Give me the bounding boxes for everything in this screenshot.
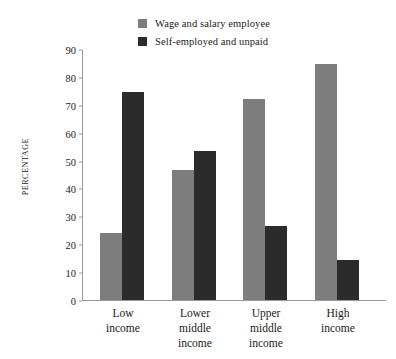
x-axis-label-line: income	[221, 336, 311, 351]
y-axis-tick-mark	[79, 273, 82, 274]
legend-entry-wage-and-salary-employee: Wage and salary employee	[138, 16, 270, 30]
x-axis-label: Highincome	[293, 306, 383, 336]
bar-group	[315, 50, 359, 300]
bar	[265, 226, 287, 300]
y-axis-tick-mark	[79, 301, 82, 302]
y-axis-tick-mark	[79, 50, 82, 51]
plot-area: 0102030405060708090	[82, 50, 386, 301]
y-axis-tick-mark	[79, 77, 82, 78]
bar-chart: Wage and salary employee Self-employed a…	[0, 0, 396, 359]
y-axis-tick-mark	[79, 161, 82, 162]
x-axis-label-line: income	[293, 321, 383, 336]
legend-label-series-0: Wage and salary employee	[155, 18, 270, 29]
x-axis-line	[82, 300, 386, 301]
bar	[315, 64, 337, 300]
bar	[337, 260, 359, 300]
y-axis-tick-mark	[79, 133, 82, 134]
bar-group	[172, 50, 216, 300]
bar-group	[243, 50, 287, 300]
bar	[172, 170, 194, 300]
bar-group	[100, 50, 144, 300]
y-axis-tick-mark	[79, 105, 82, 106]
bar	[243, 99, 265, 300]
y-axis-title: PERCENTAGE	[21, 138, 35, 195]
y-axis-tick-mark	[79, 245, 82, 246]
bars-layer	[83, 50, 386, 300]
chart-legend: Wage and salary employee Self-employed a…	[138, 16, 270, 48]
x-axis-label-line: High	[293, 306, 383, 321]
legend-entry-self-employed-and-unpaid: Self-employed and unpaid	[138, 34, 270, 48]
legend-label-series-1: Self-employed and unpaid	[155, 36, 268, 47]
x-axis-labels: LowincomeLowermiddleincomeUppermiddleinc…	[83, 306, 387, 359]
y-axis-tick-mark	[79, 217, 82, 218]
legend-swatch-icon-series-1	[138, 37, 147, 46]
bar	[100, 233, 122, 300]
bar	[194, 151, 216, 300]
bar	[122, 92, 144, 300]
y-axis-tick-mark	[79, 189, 82, 190]
legend-swatch-icon-series-0	[138, 19, 147, 28]
